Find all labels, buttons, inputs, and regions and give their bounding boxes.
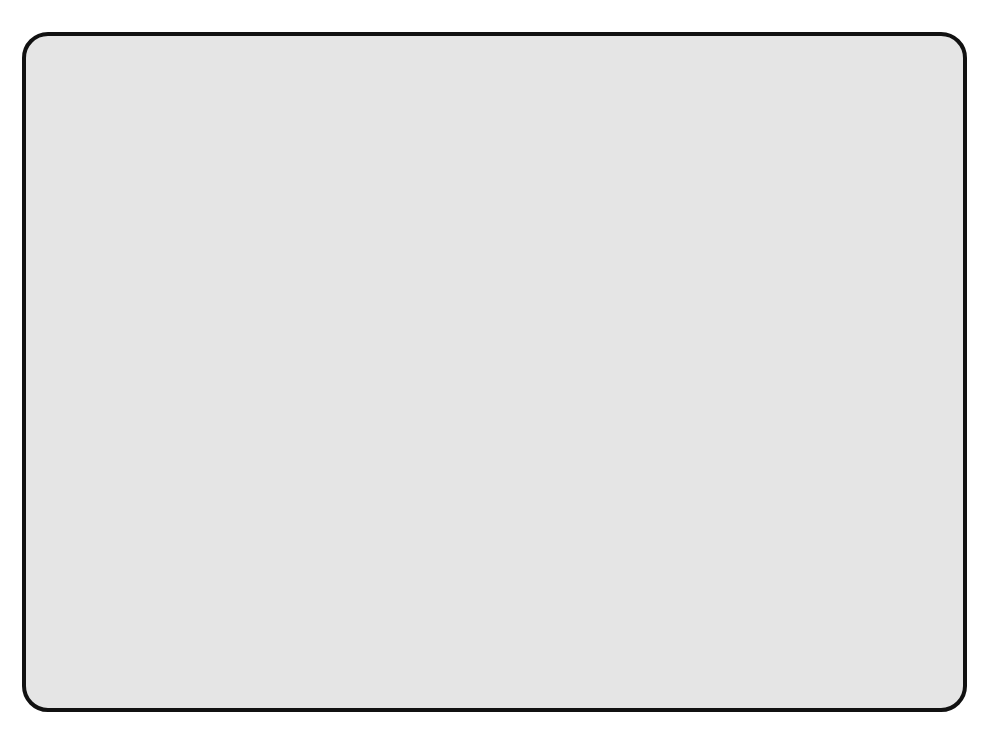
chart-panel <box>22 32 967 712</box>
figure-container: 20.010.05.02.01.00.50.20.1 7891011121314… <box>0 0 986 744</box>
cut-off-title <box>0 0 986 16</box>
